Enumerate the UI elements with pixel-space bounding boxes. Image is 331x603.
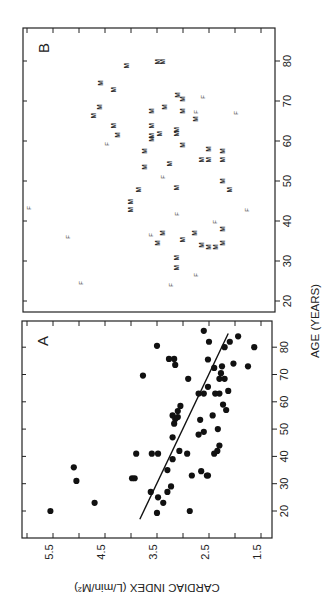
male-marker: M <box>135 187 142 192</box>
data-point <box>219 363 225 369</box>
male-marker: M <box>219 240 226 245</box>
female-marker: F <box>174 212 180 216</box>
male-marker: M <box>173 255 180 260</box>
panel-letter: B <box>35 43 52 53</box>
x-axis-title: AGE (YEARS) <box>309 284 321 358</box>
plot-frame <box>23 28 275 312</box>
data-point <box>201 429 207 435</box>
data-point <box>218 370 224 376</box>
male-marker: M <box>191 230 198 235</box>
data-point <box>175 414 181 420</box>
data-point <box>148 489 154 495</box>
male-marker: M <box>141 164 148 169</box>
data-point <box>71 464 77 470</box>
male-marker: M <box>173 131 180 136</box>
male-marker: M <box>205 146 212 151</box>
male-marker: M <box>173 265 180 270</box>
female-marker: F <box>212 220 218 224</box>
data-point <box>170 434 176 440</box>
data-point <box>189 472 195 478</box>
male-marker: M <box>159 230 166 235</box>
data-point <box>155 494 161 500</box>
male-marker: M <box>219 178 226 183</box>
age-tick-label: 80 <box>278 341 290 353</box>
age-tick-label: 60 <box>281 135 293 147</box>
data-point <box>133 451 139 457</box>
female-marker: F <box>160 175 166 179</box>
data-point <box>47 508 53 514</box>
male-marker: M <box>148 136 155 141</box>
data-point <box>164 489 170 495</box>
male-marker: M <box>90 113 97 118</box>
female-marker: F <box>244 208 250 212</box>
female-marker: F <box>193 110 199 114</box>
male-marker: M <box>166 161 173 166</box>
data-point <box>132 475 138 481</box>
male-marker: M <box>97 80 104 85</box>
data-point <box>220 401 226 407</box>
data-point <box>251 344 257 350</box>
male-marker: M <box>219 157 226 162</box>
male-marker: M <box>212 244 219 249</box>
data-point <box>197 417 203 423</box>
data-point <box>164 467 170 473</box>
male-marker: M <box>226 187 233 192</box>
data-point <box>149 451 155 457</box>
data-point <box>206 339 212 345</box>
data-point <box>140 372 146 378</box>
panel-a: 20304050607080A5.54.53.52.51.5 <box>22 321 290 560</box>
male-marker: M <box>219 226 226 231</box>
male-marker: M <box>179 237 186 242</box>
female-marker: F <box>104 142 110 146</box>
data-point <box>211 365 217 371</box>
female-marker: F <box>65 235 71 239</box>
data-point <box>205 472 211 478</box>
age-tick-label: 20 <box>278 505 290 517</box>
male-marker: M <box>205 157 212 162</box>
data-point <box>201 328 207 334</box>
data-point <box>154 343 160 349</box>
data-point <box>222 344 228 350</box>
data-point <box>172 362 178 368</box>
panel-b: 20304050607080BMMMMMMMFMMMMMFMFMMFMMMMMM… <box>23 28 293 312</box>
male-marker: M <box>96 104 103 109</box>
data-point <box>175 408 181 414</box>
male-marker: M <box>156 131 163 136</box>
data-point <box>245 363 251 369</box>
female-marker: F <box>26 206 32 210</box>
ci-tick-label: 4.5 <box>95 544 107 559</box>
male-marker: M <box>219 148 226 153</box>
ci-tick-label: 5.5 <box>43 544 55 559</box>
data-point <box>176 448 182 454</box>
figure: 20304050607080BMMMMMMMFMMMMMFMFMMFMMMMMM… <box>0 0 331 603</box>
age-tick-label: 70 <box>281 95 293 107</box>
data-point <box>205 384 211 390</box>
data-point <box>184 451 190 457</box>
ci-tick-label: 3.5 <box>147 544 159 559</box>
data-point <box>210 412 216 418</box>
age-tick-label: 80 <box>281 55 293 67</box>
male-marker: M <box>179 108 186 113</box>
male-marker: M <box>110 87 117 92</box>
data-point <box>187 508 193 514</box>
male-marker: M <box>154 240 161 245</box>
data-point <box>92 500 98 506</box>
male-marker: M <box>123 63 130 68</box>
data-point <box>168 483 174 489</box>
data-point <box>235 333 241 339</box>
male-marker: M <box>159 59 166 64</box>
male-marker: M <box>148 123 155 128</box>
data-point <box>225 388 231 394</box>
data-point <box>198 468 204 474</box>
y-axis-title: CARDIAC INDEX (L/min/M²) <box>74 582 220 594</box>
male-marker: M <box>141 148 148 153</box>
data-point <box>216 442 222 448</box>
ci-tick-label: 2.5 <box>199 544 211 559</box>
age-tick-label: 30 <box>278 478 290 490</box>
male-marker: M <box>161 104 168 109</box>
male-marker: M <box>173 185 180 190</box>
data-point <box>185 376 191 382</box>
female-marker: F <box>233 111 239 115</box>
data-point <box>227 339 233 345</box>
ci-tick-label: 1.5 <box>251 544 263 559</box>
